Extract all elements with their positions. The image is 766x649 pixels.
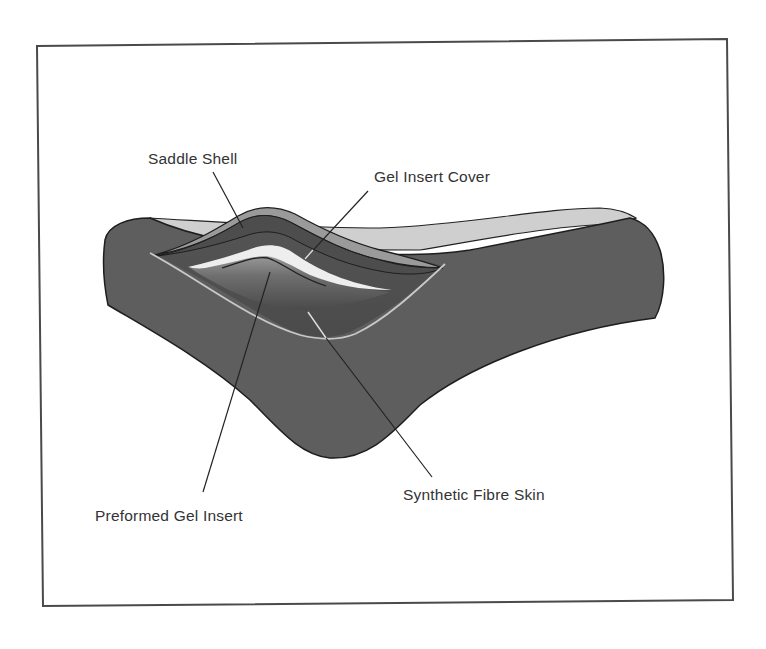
label-synthetic-fibre-skin: Synthetic Fibre Skin [403, 486, 545, 503]
saddle-diagram: Saddle Shell Gel Insert Cover Preformed … [0, 0, 766, 649]
label-gel-insert-cover: Gel Insert Cover [374, 168, 490, 185]
label-saddle-shell: Saddle Shell [148, 150, 237, 167]
leader-line-saddle-shell [213, 172, 243, 228]
label-preformed-gel-insert: Preformed Gel Insert [95, 507, 243, 524]
